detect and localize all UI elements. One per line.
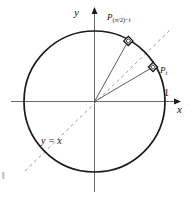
point-label-p-complement: P(π/2)−t: [107, 13, 131, 23]
point-label-p-complement-sub-t: t: [129, 16, 131, 23]
unit-circle-figure: y x 1 P(π/2)−t Pt y = x: [0, 0, 192, 200]
figure-canvas: [0, 0, 192, 200]
point-marker-p-t: [148, 62, 157, 71]
y-axis-arrowhead: [92, 7, 98, 14]
radius-to-p-complement: [95, 41, 129, 102]
page-edge-artifact: [2, 172, 5, 179]
x-axis-label: x: [177, 104, 182, 115]
x-tick-label-one: 1: [164, 88, 169, 98]
point-label-p-t-sub: t: [166, 69, 168, 76]
line-identity-label: y = x: [41, 136, 62, 146]
y-axis: [92, 7, 98, 192]
point-label-p-t: Pt: [160, 66, 167, 76]
radius-to-p-t: [95, 67, 154, 102]
y-axis-label: y: [74, 7, 79, 18]
